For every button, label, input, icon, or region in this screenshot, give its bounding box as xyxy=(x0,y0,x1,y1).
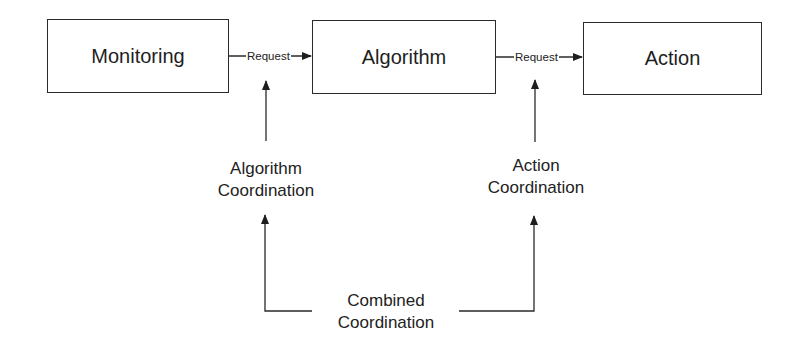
monitoring-box: Monitoring xyxy=(47,19,229,93)
request-label-2: Request xyxy=(514,51,559,63)
action-box: Action xyxy=(583,22,762,95)
monitoring-label: Monitoring xyxy=(91,45,184,68)
algorithm-coordination-line2: Coordination xyxy=(196,180,336,202)
combined-coordination-line2: Coordination xyxy=(318,312,454,334)
combined-coordination-line1: Combined xyxy=(318,290,454,312)
algorithm-label: Algorithm xyxy=(362,46,446,69)
action-label: Action xyxy=(645,47,701,70)
action-coordination-line2: Coordination xyxy=(466,177,606,199)
combined-coordination-label: Combined Coordination xyxy=(318,290,454,334)
algorithm-coordination-label: Algorithm Coordination xyxy=(196,158,336,202)
action-coordination-label: Action Coordination xyxy=(466,155,606,199)
request-label-1: Request xyxy=(246,50,291,62)
algorithm-coordination-line1: Algorithm xyxy=(196,158,336,180)
action-coordination-line1: Action xyxy=(466,155,606,177)
algorithm-box: Algorithm xyxy=(312,20,496,94)
